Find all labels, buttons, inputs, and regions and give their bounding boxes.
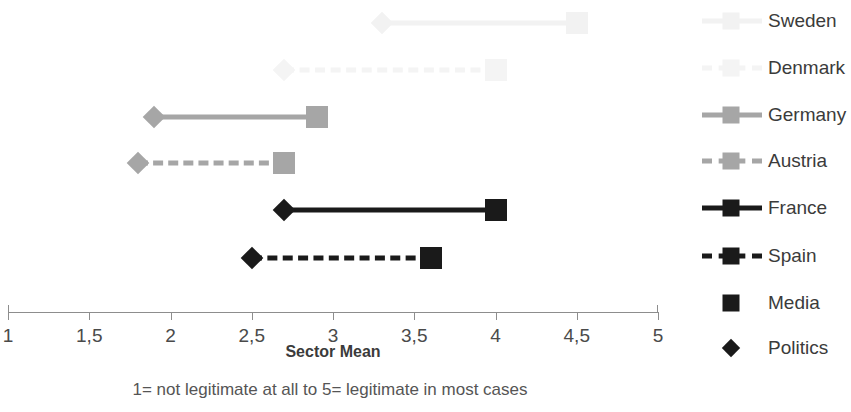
legend-item-denmark[interactable]: Denmark [700, 53, 851, 83]
media-square-marker-sweden [566, 12, 588, 34]
legend-item-france[interactable]: France [700, 193, 851, 223]
series-row-germany [0, 100, 680, 134]
legend-item-sweden[interactable]: Sweden [700, 6, 851, 36]
x-axis-tick [333, 312, 334, 320]
legend-label: Germany [762, 104, 846, 126]
series-row-austria [0, 146, 680, 180]
legend-key-spain [700, 243, 762, 269]
series-line-germany [154, 115, 317, 120]
legend-item-media[interactable]: Media [700, 288, 851, 318]
legend-key-france [700, 195, 762, 221]
chart-caption: 1= not legitimate at all to 5= legitimat… [0, 380, 660, 400]
x-axis-tick [414, 312, 415, 320]
media-square-marker-france [485, 199, 507, 221]
legend-square-marker [723, 60, 740, 77]
legend-diamond-marker [722, 339, 740, 357]
x-axis-tick [8, 312, 9, 320]
x-axis-tick [89, 312, 90, 320]
legend-square-marker [723, 13, 740, 30]
x-axis-tick [252, 312, 253, 320]
politics-diamond-marker-denmark [273, 59, 296, 82]
series-line-austria [138, 161, 284, 166]
media-square-marker-spain [420, 247, 442, 269]
legend-item-spain[interactable]: Spain [700, 241, 851, 271]
legend-key-sweden [700, 8, 762, 34]
series-row-france [0, 193, 680, 227]
legend-square-marker [723, 295, 740, 312]
series-row-denmark [0, 53, 680, 87]
legend-item-germany[interactable]: Germany [700, 100, 851, 130]
legend-label: France [762, 197, 827, 219]
legend-square-marker [723, 107, 740, 124]
media-square-marker-germany [306, 106, 328, 128]
legend-key-media [700, 290, 762, 316]
legend-key-politics [700, 335, 762, 361]
x-axis-title: Sector Mean [0, 343, 666, 361]
x-axis-left-cap [8, 305, 9, 312]
series-row-sweden [0, 6, 680, 40]
politics-diamond-marker-france [273, 199, 296, 222]
series-line-france [284, 208, 495, 213]
media-square-marker-denmark [485, 59, 507, 81]
politics-diamond-marker-spain [240, 247, 263, 270]
politics-diamond-marker-sweden [370, 12, 393, 35]
series-row-spain [0, 241, 680, 275]
legend-key-austria [700, 148, 762, 174]
legend-label: Media [762, 292, 820, 314]
x-axis-tick [577, 312, 578, 320]
chart-legend: SwedenDenmarkGermanyAustriaFranceSpainMe… [700, 0, 851, 380]
legend-label: Sweden [762, 10, 837, 32]
legend-square-marker [723, 200, 740, 217]
legend-item-politics[interactable]: Politics [700, 333, 851, 363]
chart-plot-area [0, 0, 680, 300]
x-axis-tick [496, 312, 497, 320]
politics-diamond-marker-austria [127, 152, 150, 175]
x-axis-line: 11,522,533,544,55 [8, 312, 658, 313]
series-line-sweden [382, 21, 577, 26]
legend-label: Spain [762, 245, 817, 267]
x-axis-right-cap [657, 305, 658, 312]
legend-square-marker [723, 248, 740, 265]
legend-item-austria[interactable]: Austria [700, 146, 851, 176]
legend-label: Denmark [762, 57, 845, 79]
legend-key-germany [700, 102, 762, 128]
legend-key-denmark [700, 55, 762, 81]
legend-square-marker [723, 153, 740, 170]
series-line-spain [252, 256, 431, 261]
legend-label: Politics [762, 337, 828, 359]
x-axis-tick [658, 312, 659, 320]
x-axis-tick [171, 312, 172, 320]
media-square-marker-austria [273, 152, 295, 174]
series-line-denmark [284, 68, 495, 73]
politics-diamond-marker-germany [143, 106, 166, 129]
legend-label: Austria [762, 150, 827, 172]
